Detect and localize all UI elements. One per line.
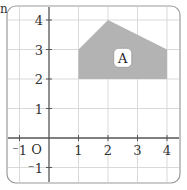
y-tick-label: 1: [35, 102, 43, 117]
y-tick-label: 4: [35, 13, 43, 28]
shape-label: A: [117, 51, 128, 66]
x-tick-label: 2: [104, 143, 112, 158]
x-tick-label: 4: [163, 143, 171, 158]
shape-layer: A: [79, 20, 168, 79]
y-tick-label: 3: [35, 43, 43, 58]
x-tick-label: 1: [74, 143, 82, 158]
y-tick-label: ⁻1: [28, 161, 43, 176]
origin-label: O: [31, 142, 42, 157]
coordinate-grid: A ⁻112344321⁻1O: [0, 0, 187, 190]
x-tick-label: ⁻1: [12, 143, 27, 158]
x-tick-label: 3: [133, 143, 141, 158]
y-tick-label: 2: [35, 72, 43, 87]
